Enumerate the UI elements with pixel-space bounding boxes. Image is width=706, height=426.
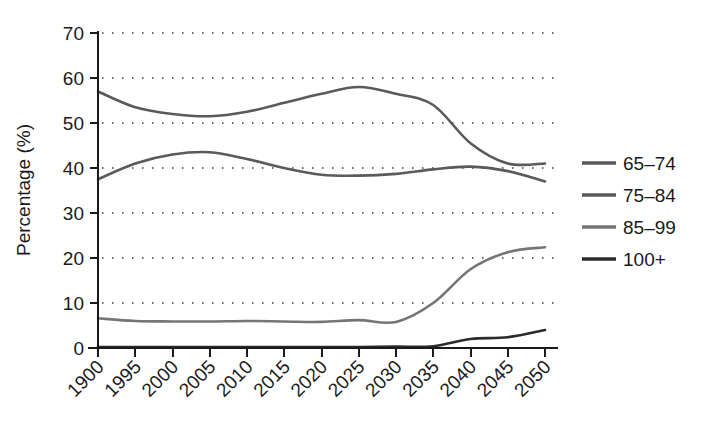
y-tick-label: 10 (63, 293, 84, 314)
y-tick-label: 70 (63, 23, 84, 44)
y-tick-label: 60 (63, 68, 84, 89)
legend-label: 85–99 (623, 217, 676, 238)
y-axis-title: Percentage (%) (13, 124, 34, 256)
x-tick-label: 2000 (138, 356, 183, 401)
x-tick-label: 1900 (63, 356, 108, 401)
legend-label: 75–84 (623, 185, 676, 206)
x-tick-label: 1995 (100, 356, 145, 401)
x-tick-label: 2040 (436, 356, 481, 401)
x-tick-label: 2025 (324, 356, 369, 401)
y-tick-label: 30 (63, 203, 84, 224)
y-tick-label: 50 (63, 113, 84, 134)
series-line-85-99 (98, 247, 545, 323)
x-tick-label: 2045 (473, 356, 518, 401)
series-line-65-74 (98, 87, 545, 165)
x-tick-label: 2020 (287, 356, 332, 401)
line-chart: 010203040506070 190019952000200520102015… (0, 0, 706, 426)
series-line-75-84 (98, 152, 545, 181)
x-tick-label: 2035 (398, 356, 443, 401)
data-series-group (98, 87, 545, 347)
x-tick-label: 2015 (249, 356, 294, 401)
chart-canvas: 010203040506070 190019952000200520102015… (0, 0, 706, 426)
x-tick-label: 2050 (510, 356, 555, 401)
x-tick-label: 2010 (212, 356, 257, 401)
y-tick-label: 20 (63, 248, 84, 269)
y-tick-label: 0 (73, 338, 84, 359)
x-tick-label: 2030 (361, 356, 406, 401)
legend: 65–7475–8485–99100+ (582, 153, 676, 270)
y-axis-ticks-group: 010203040506070 (63, 23, 98, 359)
legend-label: 65–74 (623, 153, 676, 174)
series-line-100+ (98, 330, 545, 347)
y-tick-label: 40 (63, 158, 84, 179)
legend-label: 100+ (623, 249, 666, 270)
x-tick-label: 2005 (175, 356, 220, 401)
x-axis-ticks-group: 1900199520002005201020152020202520302035… (63, 348, 555, 401)
